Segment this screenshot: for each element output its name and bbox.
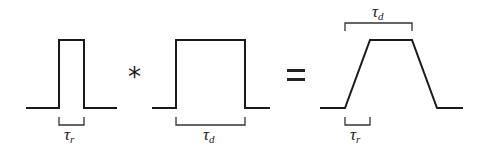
narrow-pulse: τr [26, 40, 117, 145]
trapezoid-rise-bracket [345, 117, 370, 125]
trapezoid-top-label: τd [372, 2, 384, 22]
trapezoid-top-bracket [345, 23, 412, 31]
wide-pulse: τd [152, 40, 270, 145]
wide-pulse-width-label: τd [203, 125, 215, 145]
narrow-pulse-waveform [26, 40, 117, 108]
trapezoid-result: τd τr [320, 2, 463, 145]
narrow-pulse-width-label: τr [64, 125, 75, 145]
wide-pulse-width-bracket [176, 117, 245, 125]
narrow-pulse-width-bracket [59, 117, 84, 125]
wide-pulse-waveform [152, 40, 270, 108]
convolution-operator: * [128, 62, 141, 92]
convolution-diagram: τr * τd τd τr [0, 0, 483, 147]
equals-operator [287, 69, 305, 81]
trapezoid-rise-label: τr [350, 125, 361, 145]
trapezoid-waveform [320, 40, 463, 108]
